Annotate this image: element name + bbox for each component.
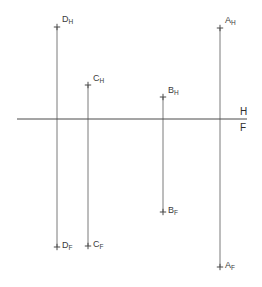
point-label-subscript: H xyxy=(69,18,74,25)
point-label-subscript: F xyxy=(69,244,73,251)
point-label-subscript: F xyxy=(174,209,178,216)
point-label-A-F: AF xyxy=(225,261,235,270)
point-label-D-F: DF xyxy=(62,241,73,250)
point-label-D-H: DH xyxy=(62,15,73,24)
point-label-base: D xyxy=(62,240,69,250)
tick-marks-group xyxy=(54,24,223,270)
drawing-canvas: DHDFCHCFBHBFAHAFHF xyxy=(0,0,262,287)
point-label-A-H: AH xyxy=(225,16,236,25)
point-label-subscript: H xyxy=(100,77,105,84)
point-label-C-F: CF xyxy=(93,240,104,249)
projector-lines-group xyxy=(57,27,220,267)
point-label-base: C xyxy=(93,73,100,83)
point-label-subscript: H xyxy=(174,89,179,96)
point-label-subscript: F xyxy=(100,243,104,250)
horizontal-plane-label: H xyxy=(240,107,247,117)
point-label-base: D xyxy=(62,14,69,24)
point-label-subscript: F xyxy=(231,264,235,271)
point-label-subscript: H xyxy=(231,19,236,26)
frontal-plane-label: F xyxy=(240,123,246,133)
point-label-C-H: CH xyxy=(93,74,104,83)
projection-diagram xyxy=(0,0,262,287)
point-label-base: C xyxy=(93,239,100,249)
point-label-B-F: BF xyxy=(168,206,178,215)
point-label-B-H: BH xyxy=(168,86,179,95)
